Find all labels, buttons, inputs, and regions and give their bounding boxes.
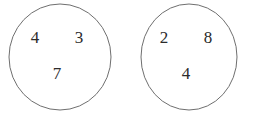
left-circle-number-1: 4 (25, 29, 45, 46)
right-circle-outline (141, 4, 237, 110)
left-circle-number-2: 3 (69, 29, 89, 46)
left-circle-outline (9, 4, 111, 110)
diagram-canvas: 4 3 7 2 8 4 (0, 0, 253, 117)
right-circle-number-2: 8 (198, 29, 218, 46)
circle-outlines (0, 0, 253, 117)
right-circle-number-3: 4 (176, 65, 196, 82)
left-circle-number-3: 7 (47, 65, 67, 82)
right-circle-number-1: 2 (154, 29, 174, 46)
